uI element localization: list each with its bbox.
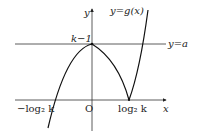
x-tick-label-right: log₂ k xyxy=(118,104,147,114)
x-axis-label: x xyxy=(163,104,169,114)
curve-middle-branch xyxy=(92,44,129,100)
line-label: y=a xyxy=(168,39,188,49)
y-axis-label: y xyxy=(84,8,90,18)
origin-label: O xyxy=(85,104,93,114)
curve-right-branch xyxy=(129,10,148,100)
curve-label: y=g(x) xyxy=(110,6,144,16)
x-tick-label-left: −log₂ k xyxy=(17,104,54,114)
curve-left-branch xyxy=(48,44,92,128)
y-tick-label: k−1 xyxy=(71,34,92,44)
graph-canvas xyxy=(0,0,200,136)
min-point xyxy=(128,99,130,101)
function-graph-diagram: y y=g(x) k−1 y=a −log₂ k O log₂ k x xyxy=(0,0,200,136)
